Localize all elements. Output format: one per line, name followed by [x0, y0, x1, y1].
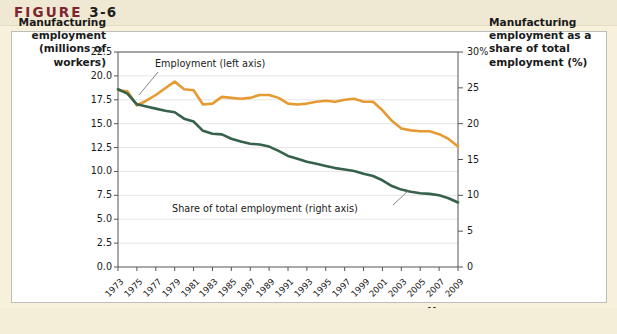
annotation-leader-share	[393, 190, 409, 205]
series-line-0	[118, 82, 458, 147]
chart-plot-area	[0, 0, 617, 334]
series-line-1	[118, 89, 458, 202]
page-bottom-strip	[0, 308, 617, 334]
